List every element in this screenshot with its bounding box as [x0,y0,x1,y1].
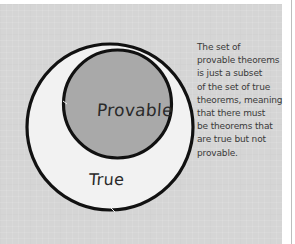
annotation-line: that there must [197,107,281,120]
annotation-line: be theorems that [197,120,281,133]
annotation-line: provable. [197,147,281,160]
diagram-canvas: Provable True The set of provable theore… [0,0,295,244]
annotation-note: The set of provable theorems is just a s… [197,41,281,160]
annotation-line: are true but not [197,133,281,146]
annotation-line: The set of [197,41,281,54]
true-set-label: True [88,170,125,189]
annotation-line: of the set of true [197,81,281,94]
annotation-line: provable theorems [197,54,281,67]
annotation-line: theorems, meaning [197,94,281,107]
provable-set-label: Provable [96,100,173,120]
annotation-line: is just a subset [197,67,281,80]
